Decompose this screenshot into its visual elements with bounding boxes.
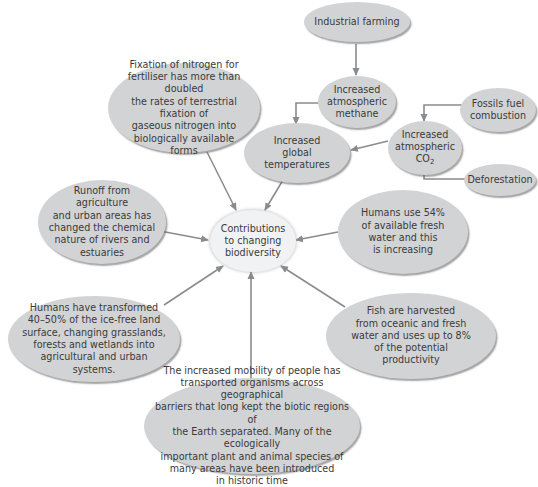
- arrow-land-to-center: [164, 266, 223, 305]
- node-fresh-water-use: Humans use 54% of available fresh water …: [338, 190, 468, 274]
- node-runoff: Runoff from agriculture and urban areas …: [38, 180, 166, 264]
- node-contributions-to-changing-biodiversity: Contributions to changing biodiversity: [210, 210, 296, 272]
- node-deforestation: Deforestation: [464, 164, 536, 196]
- node-label: Fish are harvested from oceanic and fres…: [351, 305, 471, 366]
- center-label: Contributions to changing biodiversity: [221, 223, 286, 260]
- arrow-co2-to-temperatures: [351, 141, 388, 150]
- node-industrial-farming: Industrial farming: [304, 2, 410, 42]
- node-label: Increased global temperatures: [264, 135, 329, 172]
- node-label: Industrial farming: [314, 16, 399, 28]
- node-label: Increased atmospheric CO2: [395, 129, 455, 167]
- co2-text: Increased atmospheric CO: [395, 129, 455, 165]
- node-increased-global-temperatures: Increased global temperatures: [244, 123, 350, 183]
- node-label: Humans use 54% of available fresh water …: [361, 207, 445, 256]
- node-fossil-fuel-combustion: Fossils fuel combustion: [460, 88, 536, 132]
- node-label: The increased mobility of people has tra…: [150, 365, 354, 487]
- arrow-nitrogen-to-center: [207, 152, 236, 210]
- node-increased-co2: Increased atmospheric CO2: [388, 121, 462, 175]
- node-label: Humans have transformed 40–50% of the ic…: [22, 302, 166, 376]
- arrow-methane-to-temperatures: [296, 103, 319, 124]
- node-increased-mobility: The increased mobility of people has tra…: [144, 378, 360, 474]
- arrow-temperatures-to-center: [265, 180, 283, 210]
- node-label: Runoff from agriculture and urban areas …: [48, 185, 156, 259]
- arrow-fossil-to-co2: [424, 105, 462, 121]
- arrow-runoff-to-center: [160, 231, 208, 240]
- arrow-freshwater-to-center: [296, 232, 338, 240]
- co2-subscript: 2: [430, 158, 434, 166]
- node-nitrogen-fixation: Fixation of nitrogen for fertiliser has …: [108, 63, 260, 153]
- node-increased-methane: Increased atmospheric methane: [318, 76, 396, 128]
- node-label: Increased atmospheric methane: [327, 84, 387, 121]
- node-label: Fixation of nitrogen for fertiliser has …: [114, 59, 254, 157]
- node-label: Fossils fuel combustion: [470, 98, 526, 123]
- arrow-fish-to-center: [281, 266, 345, 307]
- node-label: Deforestation: [467, 174, 532, 186]
